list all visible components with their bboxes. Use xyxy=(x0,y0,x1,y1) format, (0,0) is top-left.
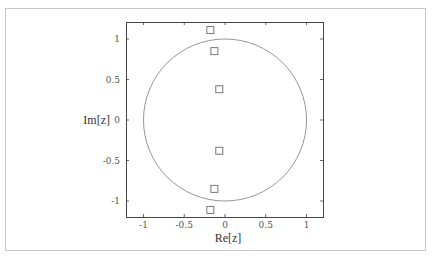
data-point-marker xyxy=(211,48,218,55)
data-point-marker xyxy=(216,86,223,93)
plot-area xyxy=(127,23,324,218)
scatter-plot: -1-0.500.51 -1-0.500.51 Re[z] Im[z] xyxy=(0,0,433,260)
x-tick-labels: -1-0.500.51 xyxy=(139,220,309,230)
y-axis-label: Im[z] xyxy=(83,113,110,127)
x-tick-label: -1 xyxy=(139,220,148,230)
x-tick-label: -0.5 xyxy=(176,220,194,230)
axis-ticks xyxy=(126,22,323,217)
x-axis-label: Re[z] xyxy=(215,231,242,245)
data-point-marker xyxy=(216,147,223,154)
data-point-marker xyxy=(207,27,214,34)
y-tick-label: 1 xyxy=(114,34,120,44)
y-tick-label: 0 xyxy=(114,115,120,125)
y-tick-label: -1 xyxy=(111,196,120,206)
data-point-marker xyxy=(207,206,214,213)
unit-circle-path xyxy=(144,39,307,201)
unit-circle xyxy=(144,39,307,201)
x-tick-label: 1 xyxy=(304,220,310,230)
x-tick-label: 0.5 xyxy=(259,220,274,230)
y-tick-label: -0.5 xyxy=(103,156,121,166)
x-tick-label: 0 xyxy=(222,220,228,230)
data-point-marker xyxy=(211,185,218,192)
data-points xyxy=(207,27,223,214)
y-tick-label: 0.5 xyxy=(106,75,121,85)
